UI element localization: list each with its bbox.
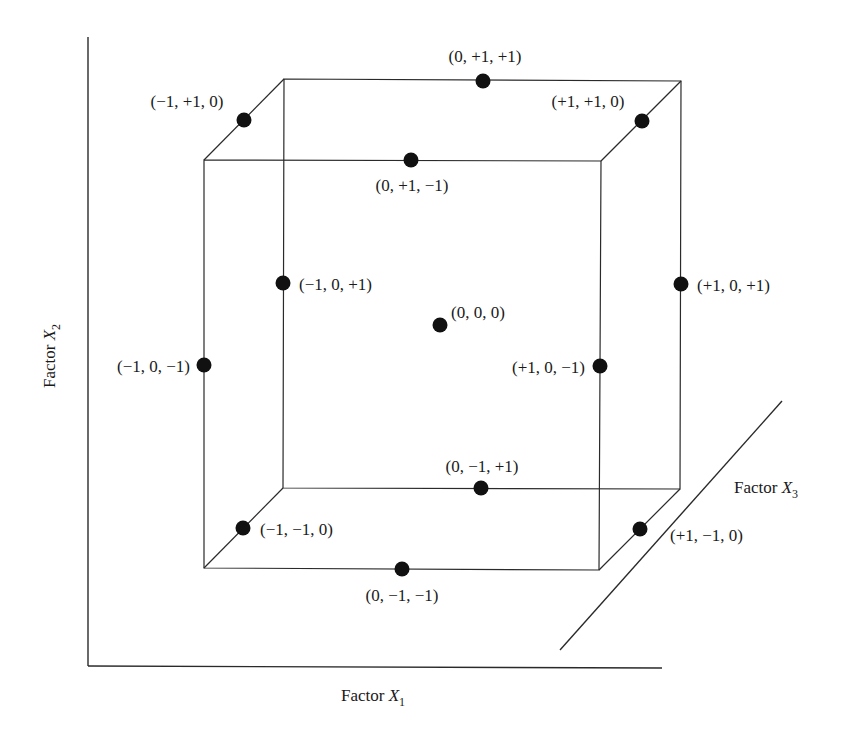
x2-axis-label: Factor X2 xyxy=(40,324,63,388)
label-0-0-0: (0, 0, 0) xyxy=(451,303,505,322)
label-m1-m1-0: (−1, −1, 0) xyxy=(260,520,333,539)
label-p1-0-p1: (+1, 0, +1) xyxy=(697,276,770,295)
point-p1-m1-0 xyxy=(633,522,648,537)
label-p1-p1-0: (+1, +1, 0) xyxy=(552,92,625,111)
point-p1-0-m1 xyxy=(593,359,608,374)
x1-axis-line xyxy=(88,666,662,668)
axes xyxy=(88,37,782,668)
point-p1-p1-0 xyxy=(635,114,650,129)
label-m1-0-m1: (−1, 0, −1) xyxy=(117,357,190,376)
x1-axis-label: Factor X1 xyxy=(341,686,405,709)
label-0-m1-p1: (0, −1, +1) xyxy=(446,457,519,476)
label-p1-m1-0: (+1, −1, 0) xyxy=(670,526,743,545)
point-m1-m1-0 xyxy=(236,521,251,536)
point-m1-p1-0 xyxy=(237,113,252,128)
label-m1-p1-0: (−1, +1, 0) xyxy=(151,92,224,111)
axis-labels: Factor X1 Factor X2 Factor X3 xyxy=(40,324,798,709)
point-0-p1-m1 xyxy=(404,153,419,168)
label-0-m1-m1: (0, −1, −1) xyxy=(366,586,439,605)
point-0-m1-m1 xyxy=(395,562,410,577)
label-m1-0-p1: (−1, 0, +1) xyxy=(299,275,372,294)
label-0-p1-m1: (0, +1, −1) xyxy=(376,176,449,195)
label-0-p1-p1: (0, +1, +1) xyxy=(449,47,522,66)
x3-axis-label: Factor X3 xyxy=(734,478,798,501)
point-m1-0-m1 xyxy=(197,358,212,373)
label-p1-0-m1: (+1, 0, −1) xyxy=(512,358,585,377)
point-0-0-0 xyxy=(433,318,448,333)
point-0-p1-p1 xyxy=(476,74,491,89)
box-behnken-diagram: (0, +1, +1) (−1, +1, 0) (+1, +1, 0) (0, … xyxy=(0,0,855,735)
point-p1-0-p1 xyxy=(674,277,689,292)
point-m1-0-p1 xyxy=(276,276,291,291)
point-0-m1-p1 xyxy=(474,481,489,496)
